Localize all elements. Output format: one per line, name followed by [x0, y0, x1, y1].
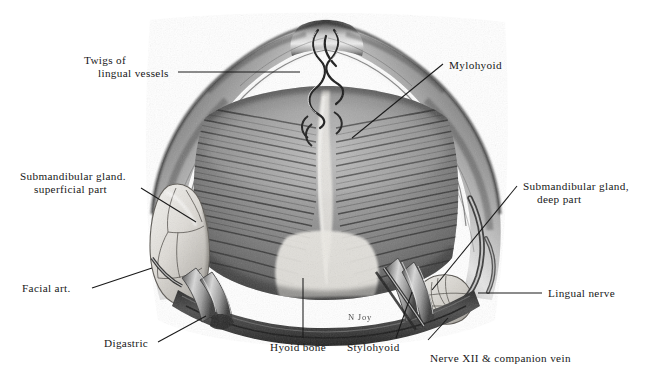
label-submandibular-gland-superficial-part-line1: Submandibular gland. [20, 170, 126, 183]
label-digastric: Digastric [104, 337, 148, 350]
label-lingual-nerve: Lingual nerve [548, 287, 615, 300]
label-submandibular-gland-deep-part-line1: Submandibular gland, [523, 180, 629, 193]
label-stylohyoid: Stylohyoid [347, 341, 400, 354]
label-nerve-xii-companion-vein: Nerve XII & companion vein [430, 352, 571, 365]
label-twigs-of-lingual-vessels-line1: Twigs of [84, 54, 126, 67]
label-facial-art: Facial art. [22, 282, 71, 295]
label-hyoid-bone: Hyoid bone [270, 341, 326, 354]
label-submandibular-gland-deep-part-line2: deep part [523, 193, 581, 206]
anatomical-plate: N Joy [0, 0, 652, 380]
label-twigs-of-lingual-vessels-line2: lingual vessels [84, 67, 169, 80]
leader-facial-art [92, 268, 152, 288]
label-mylohyoid: Mylohyoid [449, 59, 502, 72]
label-submandibular-gland-superficial-part-line2: superficial part [20, 183, 107, 196]
